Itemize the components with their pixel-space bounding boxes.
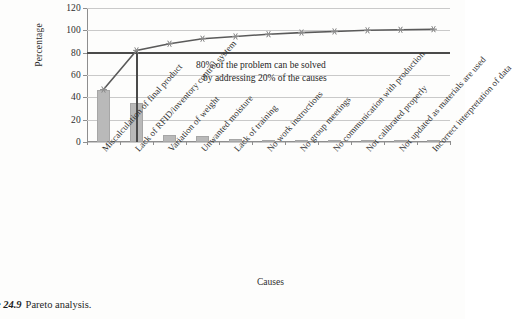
x-tick <box>219 141 220 145</box>
y-tick-label-40: 40 <box>71 92 81 102</box>
x-tick <box>285 141 286 145</box>
x-tick <box>186 141 187 145</box>
asterisk-marker <box>430 26 437 32</box>
asterisk-marker <box>265 31 272 37</box>
x-axis-title: Causes <box>0 277 465 287</box>
asterisk-marker <box>166 41 173 47</box>
figure-caption: ure 24.9Pareto analysis. <box>0 299 286 310</box>
y-axis-tick-labels: 020406080100120 <box>0 0 87 150</box>
x-tick <box>450 141 451 145</box>
y-tick-label-20: 20 <box>71 115 81 125</box>
y-tick-label-0: 0 <box>76 137 81 147</box>
asterisk-marker <box>232 34 239 40</box>
x-tick <box>384 141 385 145</box>
x-tick <box>318 141 319 145</box>
x-tick <box>351 141 352 145</box>
x-tick <box>252 141 253 145</box>
x-tick <box>153 141 154 145</box>
asterisk-marker <box>298 30 305 36</box>
asterisk-marker <box>364 27 371 33</box>
asterisk-marker <box>331 29 338 35</box>
y-tick-label-60: 60 <box>71 70 81 80</box>
y-tick-label-120: 120 <box>66 3 81 13</box>
x-tick <box>120 141 121 145</box>
figure-caption-text: Pareto analysis. <box>22 299 92 310</box>
pareto-principle-annotation: 80% of the problem can be solved by addr… <box>196 59 396 85</box>
annotation-line-2: by addressing 20% of the causes <box>196 72 396 85</box>
x-tick <box>417 141 418 145</box>
figure-caption-label: ure 24.9 <box>0 299 22 310</box>
annotation-line-1: 80% of the problem can be solved <box>196 60 326 70</box>
y-tick-label-100: 100 <box>66 25 81 35</box>
asterisk-marker <box>397 27 404 33</box>
asterisk-marker <box>199 36 206 42</box>
x-tick <box>87 141 88 145</box>
pareto-chart-figure: Percentage 020406080100120 80% of the pr… <box>0 0 465 292</box>
y-tick-label-80: 80 <box>71 48 81 58</box>
gridline-0 <box>87 142 450 143</box>
